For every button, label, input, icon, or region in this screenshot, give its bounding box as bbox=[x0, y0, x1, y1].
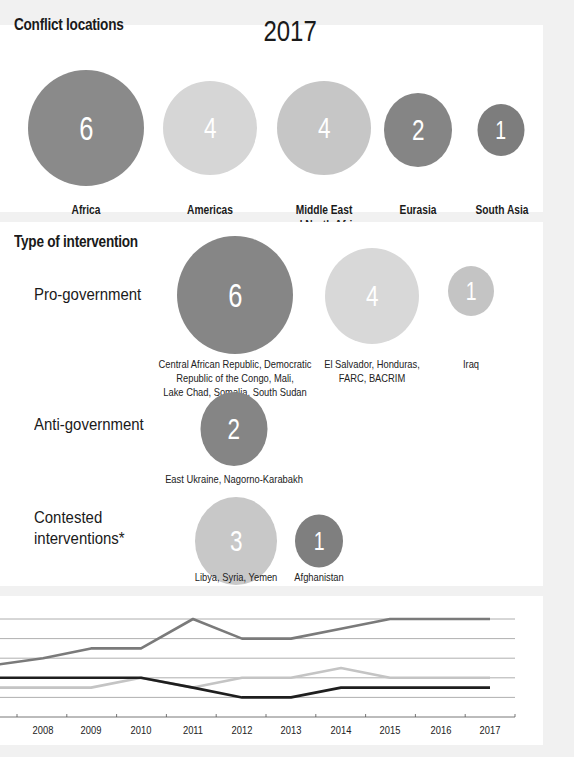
year-label: 2013 bbox=[281, 724, 302, 736]
year-label: 2014 bbox=[331, 724, 352, 736]
year-label: 2015 bbox=[380, 724, 401, 736]
year-label: 2017 bbox=[480, 724, 501, 736]
year-label: 2009 bbox=[81, 724, 102, 736]
year-label: 2010 bbox=[131, 724, 152, 736]
year-label: 2016 bbox=[431, 724, 452, 736]
year-label: 2011 bbox=[183, 724, 203, 736]
year-label: 2008 bbox=[33, 724, 54, 736]
line-chart bbox=[0, 0, 574, 757]
year-label: 2012 bbox=[232, 724, 253, 736]
